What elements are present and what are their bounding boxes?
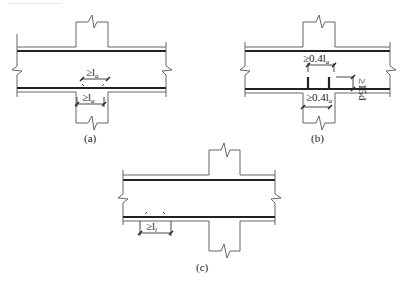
label-lap: ≥ll (146, 220, 157, 234)
figure-a: ≥la ≥la (a) (12, 15, 172, 145)
caption-b: (b) (311, 132, 324, 145)
header-fragment: —————— (8, 0, 62, 8)
label-bottom-lap: ≥la (82, 91, 95, 105)
label-bottom-anchor: ≥0.4la (306, 91, 333, 105)
label-top-anchor: ≥0.4la (303, 52, 330, 66)
figure-c: ≥ll (c) (118, 143, 281, 274)
beam-column-rebar-diagram: —————— ≥la ≥la (a) (0, 0, 406, 286)
label-bend: ≥15d (357, 78, 369, 101)
caption-a: (a) (84, 132, 97, 145)
label-top-lap: ≥la (86, 66, 99, 80)
figure-b: ≥0.4la ≥15d ≥0.4la (b) (240, 15, 396, 145)
caption-c: (c) (196, 261, 209, 274)
